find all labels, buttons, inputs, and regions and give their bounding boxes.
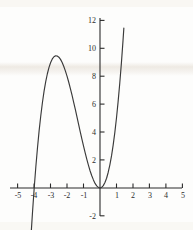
x-tick-label-2: 2: [125, 191, 141, 200]
x-tick-label-4: 4: [158, 191, 174, 200]
y-tick-label-2: 2: [80, 156, 96, 165]
y-tick-label-4: 4: [80, 128, 96, 137]
x-tick-label--1: -1: [76, 191, 92, 200]
x-tick-label-1: 1: [109, 191, 125, 200]
y-tick-label-6: 6: [80, 100, 96, 109]
x-tick-label--4: -4: [26, 191, 42, 200]
y-tick-label-8: 8: [80, 72, 96, 81]
x-tick-label-5: 5: [175, 191, 191, 200]
x-tick-label--5: -5: [10, 191, 26, 200]
x-tick-label--3: -3: [43, 191, 59, 200]
x-tick-label--2: -2: [59, 191, 75, 200]
plot-screenshot: -5 -4 -3 -2 -1 1 2 3 4 5 12 10 8 6 4 2 -…: [0, 0, 193, 230]
x-tick-label-3: 3: [142, 191, 158, 200]
y-tick-label--2: -2: [80, 212, 96, 221]
y-tick-label-12: 12: [80, 16, 96, 25]
y-tick-label-10: 10: [80, 44, 96, 53]
